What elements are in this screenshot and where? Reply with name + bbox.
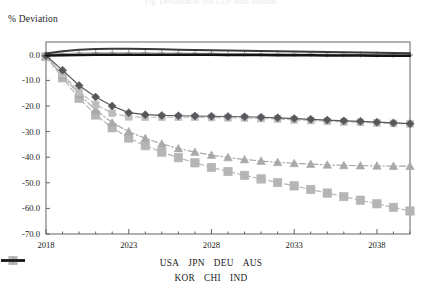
data-point bbox=[406, 207, 414, 215]
legend-label: AUS bbox=[243, 258, 263, 268]
legend-item-deu[interactable]: DEU bbox=[214, 258, 234, 268]
legend-key-ind bbox=[0, 255, 26, 266]
legend-row-1: USAJPNDEUAUS bbox=[0, 255, 422, 270]
data-point bbox=[273, 178, 281, 186]
x-tick-label: 2028 bbox=[203, 240, 220, 250]
series-line bbox=[46, 57, 410, 211]
data-point bbox=[108, 102, 116, 110]
legend-item-ind[interactable]: IND bbox=[230, 273, 247, 283]
y-tick-label: 0.0 bbox=[29, 50, 40, 60]
y-tick-label: -10.0 bbox=[22, 75, 40, 85]
legend-label: CHI bbox=[204, 273, 221, 283]
series-deu bbox=[42, 52, 414, 169]
y-tick-label: -60.0 bbox=[22, 203, 40, 213]
data-point bbox=[224, 167, 232, 175]
data-point bbox=[141, 141, 149, 149]
data-point bbox=[340, 192, 348, 200]
data-point bbox=[307, 185, 315, 193]
x-tick-label: 2038 bbox=[368, 240, 385, 250]
data-point bbox=[108, 118, 116, 126]
y-tick-label: -70.0 bbox=[22, 229, 40, 239]
y-tick-label: -50.0 bbox=[22, 178, 40, 188]
series-ind bbox=[46, 55, 410, 56]
legend-item-usa[interactable]: USA bbox=[160, 258, 180, 268]
data-point bbox=[373, 200, 381, 208]
data-point bbox=[323, 189, 331, 197]
data-point bbox=[158, 140, 166, 148]
legend-item-kor[interactable]: KOR bbox=[175, 273, 196, 283]
legend-label: DEU bbox=[214, 258, 234, 268]
data-point bbox=[92, 93, 100, 101]
data-point bbox=[158, 148, 166, 156]
x-tick-label: 2018 bbox=[37, 240, 54, 250]
data-point bbox=[389, 203, 397, 211]
data-point bbox=[109, 110, 116, 117]
y-tick-label: -30.0 bbox=[22, 127, 40, 137]
legend-label: KOR bbox=[175, 273, 196, 283]
plot-canvas: 0.0-10.0-20.0-30.0-40.0-50.0-60.0-70.020… bbox=[0, 0, 422, 250]
legend-item-jpn[interactable]: JPN bbox=[188, 258, 204, 268]
data-point bbox=[240, 171, 248, 179]
legend-label: USA bbox=[160, 258, 180, 268]
legend-row-2: KORCHIIND bbox=[0, 270, 422, 285]
data-point bbox=[191, 159, 199, 167]
plot-frame bbox=[46, 42, 410, 234]
data-point bbox=[257, 175, 265, 183]
legend-item-aus[interactable]: AUS bbox=[243, 258, 263, 268]
data-point bbox=[406, 162, 414, 170]
y-tick-label: -20.0 bbox=[22, 101, 40, 111]
series-line bbox=[46, 55, 410, 56]
chart-root: Fig. Deviation of real GDP from baseline… bbox=[0, 0, 422, 290]
data-point bbox=[92, 101, 99, 108]
data-point bbox=[125, 127, 133, 135]
legend-label: IND bbox=[230, 273, 247, 283]
data-point bbox=[141, 134, 149, 142]
x-tick-label: 2023 bbox=[120, 240, 137, 250]
legend-item-chi[interactable]: CHI bbox=[204, 273, 221, 283]
data-point bbox=[290, 182, 298, 190]
series-kor bbox=[42, 52, 414, 215]
series-line bbox=[46, 56, 410, 166]
data-point bbox=[207, 163, 215, 171]
data-point bbox=[174, 154, 182, 162]
data-point bbox=[356, 196, 364, 204]
x-tick-label: 2033 bbox=[286, 240, 303, 250]
chart-legend: USAJPNDEUAUS KORCHIIND bbox=[0, 255, 422, 285]
y-tick-label: -40.0 bbox=[22, 152, 40, 162]
legend-label: JPN bbox=[188, 258, 204, 268]
